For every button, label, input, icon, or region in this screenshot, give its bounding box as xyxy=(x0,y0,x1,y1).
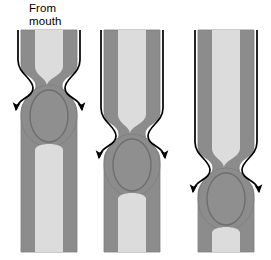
tube-lumen-3 xyxy=(212,30,240,168)
tube-lumen-2 xyxy=(118,30,146,134)
bolus-1 xyxy=(30,90,68,142)
peristalsis-figure: From mouth xyxy=(0,0,271,260)
bolus-2 xyxy=(113,139,151,191)
panel-stage-2 xyxy=(99,30,165,252)
bolus-3 xyxy=(207,173,245,225)
tube-lumen-lower-2 xyxy=(118,193,146,252)
tube-lumen-lower-1 xyxy=(35,144,63,252)
panel-stage-3 xyxy=(193,30,259,252)
panel-stage-1 xyxy=(16,30,82,252)
tube-lumen-lower-3 xyxy=(212,227,240,252)
peristalsis-diagram-svg xyxy=(0,0,271,260)
